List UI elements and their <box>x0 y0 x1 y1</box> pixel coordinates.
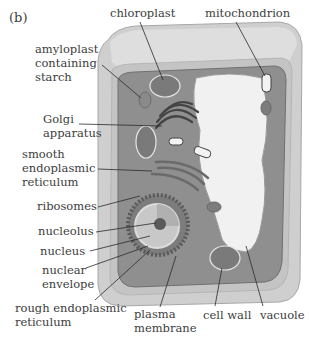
label-smooth-er-2: endoplasmic <box>22 162 95 175</box>
nucleolus <box>154 218 166 230</box>
label-chloroplast: chloroplast <box>110 7 175 20</box>
label-plasma-membrane-1: plasma <box>134 308 176 321</box>
label-cell-wall: cell wall <box>203 309 251 322</box>
label-smooth-er-3: reticulum <box>22 176 78 189</box>
label-mitochondrion: mitochondrion <box>205 7 290 20</box>
label-rough-er-2: reticulum <box>15 316 71 329</box>
label-nucleus: nucleus <box>40 245 85 258</box>
label-nuclear-envelope-1: nuclear <box>42 264 86 277</box>
amyloplast <box>139 92 151 108</box>
nucleus <box>135 204 179 248</box>
label-amyloplast-1: amyloplast <box>35 43 98 56</box>
label-ribosomes: ribosomes <box>37 200 97 213</box>
label-nucleolus: nucleolus <box>38 225 94 238</box>
label-golgi-1: Golgi <box>43 113 74 126</box>
label-nuclear-envelope-2: envelope <box>42 278 94 291</box>
label-vacuole: vacuole <box>260 309 305 322</box>
label-amyloplast-2: containing <box>35 57 97 70</box>
label-amyloplast-3: starch <box>35 71 72 84</box>
label-golgi-2: apparatus <box>43 127 102 140</box>
label-smooth-er-1: smooth <box>22 148 65 161</box>
label-rough-er-1: rough endoplasmic <box>15 302 127 315</box>
label-plasma-membrane-2: membrane <box>134 322 197 335</box>
